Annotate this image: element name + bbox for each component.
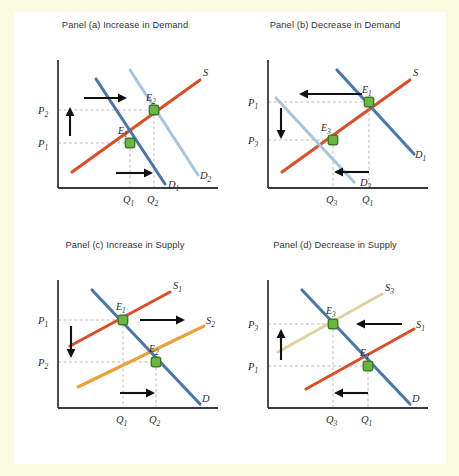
curve-label-s2: S2 bbox=[206, 315, 215, 329]
panel-d: Panel (d) Decrease in Supply bbox=[232, 240, 438, 445]
equilibrium-marker-e1 bbox=[364, 97, 373, 106]
shift-arrow-lower bbox=[334, 168, 369, 177]
panel-c-title: Panel (c) Increase in Supply bbox=[22, 240, 228, 250]
tick-label-q3: Q3 bbox=[326, 414, 338, 428]
shift-arrow-price bbox=[277, 329, 286, 360]
curve-label-s: S bbox=[413, 67, 419, 78]
tick-label-q2: Q2 bbox=[149, 414, 161, 428]
tick-label-q1: Q1 bbox=[123, 194, 134, 208]
panel-c: Panel (c) Increase in Supply bbox=[22, 240, 228, 445]
curve-demand-d1 bbox=[337, 70, 414, 154]
figure-frame: Panel (a) Increase in Demand bbox=[0, 0, 459, 476]
curve-label-s1: S1 bbox=[416, 319, 425, 333]
equilibrium-marker-e1 bbox=[363, 361, 372, 370]
tick-label-p2: P2 bbox=[37, 357, 48, 371]
equilibrium-label-e1: E1 bbox=[115, 301, 126, 315]
tick-label-p1: P1 bbox=[247, 361, 258, 375]
equilibrium-label-e3: E3 bbox=[320, 122, 331, 136]
tick-label-q3: Q3 bbox=[326, 194, 338, 208]
tick-label-p3: P3 bbox=[247, 319, 258, 333]
equilibrium-marker-e1 bbox=[118, 315, 127, 324]
shift-arrow-price bbox=[67, 326, 76, 358]
curve-label-d: D bbox=[411, 393, 420, 404]
tick-label-q2: Q2 bbox=[147, 194, 159, 208]
panel-d-title: Panel (d) Decrease in Supply bbox=[232, 240, 438, 250]
curve-supply-s bbox=[72, 80, 200, 172]
panel-c-plot: P1 P2 Q1 Q2 S1 S2 D E1 E2 bbox=[22, 256, 228, 428]
panel-a: Panel (a) Increase in Demand bbox=[22, 20, 228, 220]
curve-label-s3: S3 bbox=[385, 282, 394, 296]
curve-label-d1: D1 bbox=[167, 179, 179, 193]
tick-label-q1: Q1 bbox=[362, 194, 373, 208]
tick-label-p1: P1 bbox=[37, 138, 48, 152]
equilibrium-marker-e2 bbox=[149, 105, 158, 114]
tick-label-p3: P3 bbox=[247, 135, 258, 149]
shift-arrow-lower bbox=[116, 169, 153, 178]
shift-arrow-upper bbox=[356, 320, 402, 329]
shift-arrow-upper bbox=[140, 316, 185, 325]
tick-label-p2: P2 bbox=[37, 105, 48, 119]
curve-supply-s2 bbox=[78, 326, 204, 387]
equilibrium-marker-e2 bbox=[151, 357, 160, 366]
tick-label-q1: Q1 bbox=[116, 414, 127, 428]
curve-demand-d bbox=[92, 290, 200, 404]
shift-arrow-lower bbox=[120, 389, 155, 398]
curve-demand-d1 bbox=[96, 79, 165, 184]
curve-label-d2: D2 bbox=[199, 170, 212, 184]
equilibrium-marker-e3 bbox=[328, 135, 337, 144]
tick-label-p1: P1 bbox=[37, 315, 48, 329]
panel-b-title: Panel (b) Decrease in Demand bbox=[232, 20, 438, 30]
figure-canvas: Panel (a) Increase in Demand bbox=[14, 12, 446, 464]
curve-label-d: D bbox=[201, 393, 210, 404]
tick-label-p1: P1 bbox=[247, 97, 258, 111]
panel-d-plot: P3 P1 Q3 Q1 S3 S1 D E3 E1 bbox=[232, 256, 438, 428]
shift-arrow-upper bbox=[299, 90, 362, 99]
panel-a-plot: P1 P2 Q1 Q2 S D1 D2 E1 E2 bbox=[22, 36, 228, 208]
curve-label-s: S bbox=[203, 67, 209, 78]
panel-b: Panel (b) Decrease in Demand bbox=[232, 20, 438, 220]
curve-supply-s1 bbox=[306, 329, 414, 389]
shift-arrow-lower bbox=[334, 389, 368, 398]
shift-arrow-price bbox=[66, 107, 75, 136]
panel-b-plot: P1 P3 Q3 Q1 S D1 D3 E1 E3 bbox=[232, 36, 438, 208]
shift-arrow-price bbox=[277, 108, 286, 139]
equilibrium-marker-e1 bbox=[125, 138, 134, 147]
equilibrium-marker-e3 bbox=[328, 319, 337, 328]
curve-label-s1: S1 bbox=[173, 280, 182, 294]
panel-a-title: Panel (a) Increase in Demand bbox=[22, 20, 228, 30]
equilibrium-label-e1: E1 bbox=[361, 84, 372, 98]
curve-label-d1: D1 bbox=[414, 149, 426, 163]
tick-label-q1: Q1 bbox=[361, 414, 372, 428]
